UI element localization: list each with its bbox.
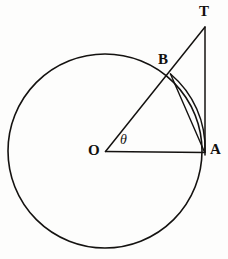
radius-oa-segment xyxy=(106,152,206,153)
geometry-figure: O A B T θ xyxy=(0,0,228,259)
point-label-a: A xyxy=(210,142,221,157)
point-label-b: B xyxy=(158,52,168,67)
angle-label-theta: θ xyxy=(120,133,127,147)
point-label-t: T xyxy=(199,4,209,19)
chord-ba-segment xyxy=(171,74,205,152)
figure-canvas xyxy=(0,0,228,259)
point-label-o: O xyxy=(88,143,100,158)
